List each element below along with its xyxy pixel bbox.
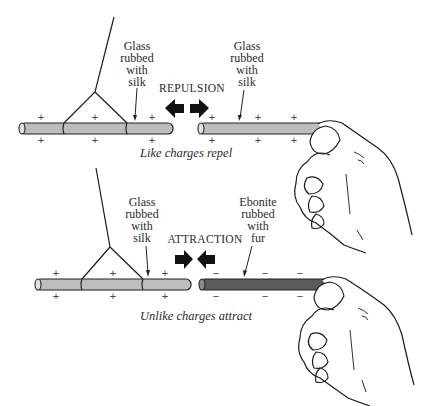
bottom-left-rod-label: Glass rubbed with silk (122, 196, 162, 244)
top-left-rod-label: Glass rubbed with silk (117, 40, 157, 88)
bottom-panel (35, 168, 414, 406)
glass-rod-suspended-bottom (35, 279, 191, 290)
charge-sign: − (260, 268, 270, 278)
like-charges-caption: Like charges repel (140, 146, 232, 161)
hand-bottom-icon (299, 277, 414, 406)
charge-sign: + (90, 112, 100, 122)
charge-sign: + (207, 135, 217, 145)
charge-sign: + (147, 112, 157, 122)
top-right-rod-label: Glass rubbed with silk (227, 40, 267, 88)
attraction-arrows-icon (175, 250, 215, 269)
charge-sign: − (295, 291, 305, 301)
charge-sign: + (207, 112, 217, 122)
repulsion-label: REPULSION (152, 82, 232, 94)
charge-sign: + (147, 135, 157, 145)
charge-sign: + (36, 135, 46, 145)
charge-sign: + (36, 112, 46, 122)
charge-sign: + (160, 268, 170, 278)
charge-sign: + (108, 291, 118, 301)
attraction-label: ATTRACTION (160, 233, 250, 245)
charge-sign: − (260, 291, 270, 301)
electrostatics-diagram (0, 0, 432, 406)
unlike-charges-caption: Unlike charges attract (140, 309, 252, 324)
charge-sign: − (211, 268, 221, 278)
charge-sign: − (211, 291, 221, 301)
charge-sign: + (51, 291, 61, 301)
charge-sign: + (253, 135, 263, 145)
charge-sign: + (253, 112, 263, 122)
charge-sign: + (289, 135, 299, 145)
charge-sign: + (108, 268, 118, 278)
charge-sign: + (289, 112, 299, 122)
charge-sign: + (51, 268, 61, 278)
hand-top-icon (295, 121, 412, 253)
charge-sign: − (295, 268, 305, 278)
glass-rod-suspended-top (19, 123, 173, 134)
charge-sign: + (160, 291, 170, 301)
charge-sign: + (90, 135, 100, 145)
repulsion-arrows-icon (165, 99, 209, 118)
